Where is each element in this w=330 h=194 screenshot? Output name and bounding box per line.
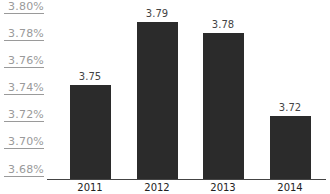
value-label: 3.75 (60, 71, 120, 82)
y-tick-label: 3.70% (4, 136, 44, 149)
bar-2012 (137, 22, 178, 179)
value-label: 3.72 (260, 102, 320, 113)
bar-2013 (203, 33, 244, 179)
x-tick-label: 2012 (127, 182, 187, 193)
bar-2011 (70, 85, 111, 179)
y-tick-label: 3.68% (4, 164, 44, 177)
y-tick-label: 3.76% (4, 55, 44, 68)
value-label: 3.78 (193, 19, 253, 30)
y-tick-label: 3.78% (4, 28, 44, 41)
x-tick-label: 2013 (193, 182, 253, 193)
bar-chart: 3.80% 3.78% 3.76% 3.74% 3.72% 3.70% 3.68… (0, 0, 330, 194)
y-tick-label: 3.74% (4, 82, 44, 95)
y-tick-label: 3.72% (4, 109, 44, 122)
y-tick-label: 3.80% (4, 1, 44, 14)
x-axis-line (47, 179, 326, 180)
value-label: 3.79 (127, 8, 187, 19)
x-tick-label: 2014 (260, 182, 320, 193)
bar-2014 (270, 116, 311, 179)
x-tick-label: 2011 (60, 182, 120, 193)
